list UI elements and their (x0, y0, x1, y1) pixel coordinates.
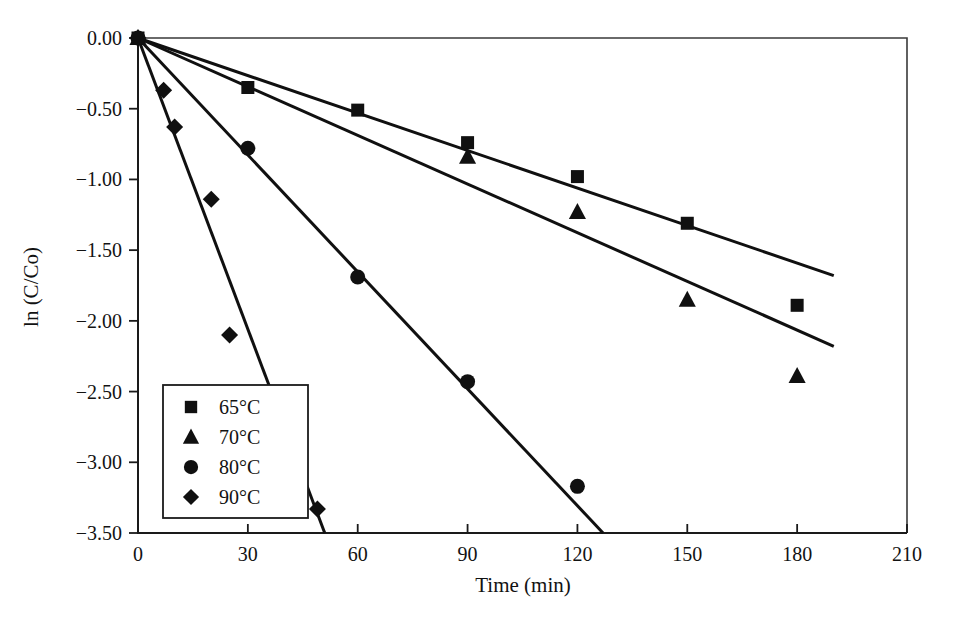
data-point-80C-4 (570, 479, 585, 494)
data-point-70C-3 (679, 291, 696, 307)
data-point-65C-6 (791, 299, 804, 312)
chart-figure: 0306090120150180210 0.00−0.50−1.00−1.50−… (0, 0, 964, 626)
y-tick-label-6: −3.00 (76, 451, 122, 473)
y-axis-tick-labels: 0.00−0.50−1.00−1.50−2.00−2.50−3.00−3.50 (76, 27, 122, 544)
legend-marker-0 (185, 401, 197, 413)
data-point-65C-4 (571, 170, 584, 183)
y-tick-label-5: −2.50 (76, 381, 122, 403)
data-point-80C-3 (460, 374, 475, 389)
legend-label-0: 65°C (219, 396, 260, 418)
data-point-90C-3 (203, 191, 220, 208)
data-point-65C-3 (461, 136, 474, 149)
y-tick-label-1: −0.50 (76, 98, 122, 120)
data-point-65C-2 (351, 104, 364, 117)
x-tick-label-3: 90 (458, 543, 478, 565)
x-axis-title: Time (min) (475, 573, 570, 597)
y-tick-label-3: −1.50 (76, 239, 122, 261)
x-tick-label-2: 60 (348, 543, 368, 565)
data-point-70C-4 (789, 367, 806, 383)
legend-label-1: 70°C (219, 426, 260, 448)
data-point-90C-1 (155, 82, 172, 99)
data-point-70C-1 (459, 148, 476, 164)
y-tick-label-2: −1.00 (76, 168, 122, 190)
fit-line-65C (138, 38, 834, 276)
data-point-70C-2 (569, 203, 586, 219)
legend-label-3: 90°C (219, 486, 260, 508)
data-point-90C-5 (309, 500, 326, 517)
data-point-65C-5 (681, 217, 694, 230)
legend-label-2: 80°C (219, 456, 260, 478)
data-point-65C-1 (241, 81, 254, 94)
x-tick-label-5: 150 (672, 543, 702, 565)
y-tick-label-7: −3.50 (76, 522, 122, 544)
data-point-80C-1 (240, 141, 255, 156)
y-axis-title: ln (C/Co) (19, 247, 43, 327)
data-point-90C-4 (221, 327, 238, 344)
x-tick-label-7: 210 (892, 543, 922, 565)
x-tick-label-0: 0 (133, 543, 143, 565)
chart-legend: 65°C70°C80°C90°C (163, 385, 308, 518)
x-tick-label-1: 30 (238, 543, 258, 565)
x-tick-label-4: 120 (562, 543, 592, 565)
y-tick-label-0: 0.00 (87, 27, 122, 49)
y-tick-label-4: −2.00 (76, 310, 122, 332)
chart-canvas: 0306090120150180210 0.00−0.50−1.00−1.50−… (0, 0, 964, 626)
legend-marker-2 (184, 460, 198, 474)
x-axis-tick-labels: 0306090120150180210 (133, 543, 922, 565)
data-point-80C-2 (350, 270, 365, 285)
x-tick-label-6: 180 (782, 543, 812, 565)
